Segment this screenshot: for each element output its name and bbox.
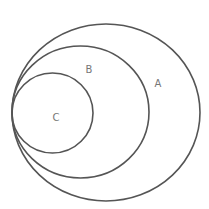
set-b-circle — [12, 46, 149, 178]
set-a-label: A — [155, 79, 162, 89]
venn-diagram — [0, 0, 209, 209]
set-c-label: C — [53, 113, 60, 123]
set-b-label: B — [86, 65, 93, 75]
